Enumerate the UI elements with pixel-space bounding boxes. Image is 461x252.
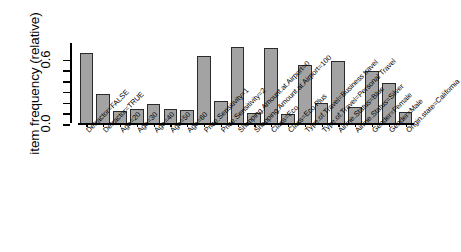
y-tick-label-0: 0.0: [38, 109, 53, 139]
y-tick-minor: [63, 113, 70, 115]
y-tick-0: [63, 124, 70, 126]
y-axis-line: [70, 43, 72, 123]
y-tick-minor: [63, 92, 70, 94]
y-tick-0-6: [63, 60, 70, 62]
x-axis-category-labels: Detractor=FALSEDetractor=TRUEAge=20Age=3…: [78, 128, 414, 248]
y-tick-label-6: 0.6: [38, 44, 53, 74]
y-tick-0-4: [63, 81, 70, 83]
y-tick-minor: [63, 70, 70, 72]
y-axis-title: item frequency (relative): [27, 0, 42, 174]
y-tick-0-2: [63, 103, 70, 105]
bar: [80, 53, 94, 124]
bar-cell: [78, 38, 95, 124]
